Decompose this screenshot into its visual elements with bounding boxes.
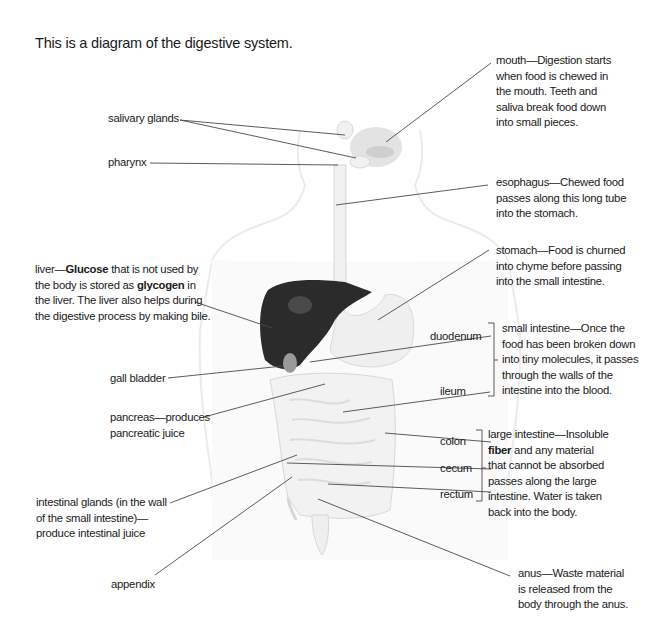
desc-esophagus: esophagus—Chewed food passes along this …	[496, 175, 626, 222]
label-colon: colon	[440, 434, 466, 450]
desc-anus: anus—Waste material is released from the…	[518, 566, 628, 613]
desc-liver: liver—Glucose that is not used by the bo…	[35, 262, 210, 324]
desc-intestinal-glands: intestinal glands (in the wall of the sm…	[36, 495, 167, 542]
label-cecum: cecum	[440, 461, 472, 477]
label-rectum: rectum	[440, 487, 473, 503]
desc-pancreas: pancreas—produces pancreatic juice	[110, 410, 210, 441]
label-gall-bladder: gall bladder	[110, 371, 165, 387]
desc-large-intestine: large intestine—Insoluble fiber and any …	[488, 427, 609, 521]
label-pharynx: pharynx	[108, 155, 146, 171]
label-duodenum: duodenum	[430, 329, 481, 345]
desc-small-intestine: small intestine—Once the food has been b…	[502, 321, 638, 399]
desc-stomach: stomach—Food is churned into chyme befor…	[496, 243, 625, 290]
label-salivary-glands: salivary glands	[108, 111, 179, 127]
desc-mouth: mouth—Digestion starts when food is chew…	[496, 53, 611, 131]
diagram-title: This is a diagram of the digestive syste…	[35, 35, 293, 51]
label-ileum: ileum	[440, 384, 466, 400]
label-appendix: appendix	[111, 577, 155, 593]
